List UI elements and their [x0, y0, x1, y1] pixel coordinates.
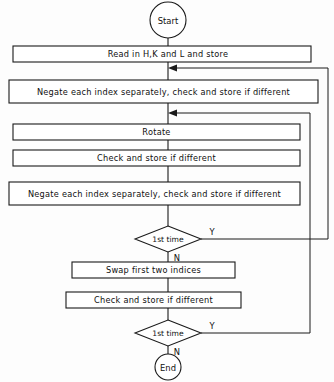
- node-check-2-label: Check and store if different: [94, 295, 213, 305]
- arrowhead-inner-loop: [168, 110, 177, 117]
- branch-label-decision1-yes: Y: [208, 227, 215, 237]
- node-negate-1-label: Negate each index separately, check and …: [37, 87, 291, 97]
- node-end-label: End: [160, 363, 176, 373]
- node-read-label: Read in H,K and L and store: [108, 49, 229, 59]
- node-decision-2-label: 1st time: [152, 329, 184, 338]
- flowchart-svg: Start Read in H,K and L and store Negate…: [0, 0, 334, 382]
- flowchart-canvas: Start Read in H,K and L and store Negate…: [0, 0, 334, 382]
- branch-label-decision2-no: N: [174, 347, 180, 357]
- node-rotate-label: Rotate: [142, 127, 170, 137]
- node-decision-1-label: 1st time: [152, 235, 184, 244]
- node-swap-label: Swap first two indices: [106, 265, 201, 275]
- branch-label-decision2-yes: Y: [208, 321, 215, 331]
- node-start-label: Start: [158, 16, 179, 26]
- node-negate-2-label: Negate each index separately, check and …: [28, 189, 282, 199]
- node-check-1-label: Check and store if different: [97, 153, 216, 163]
- branch-label-decision1-no: N: [174, 253, 180, 263]
- arrowhead-outer-loop: [168, 65, 177, 72]
